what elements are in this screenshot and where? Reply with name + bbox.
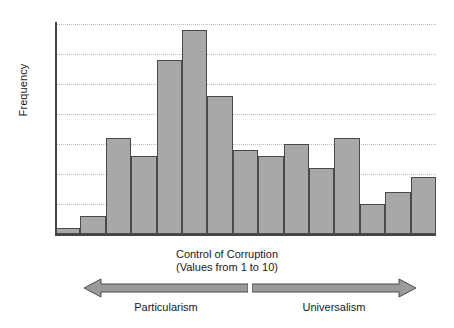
gridline-25 — [57, 84, 436, 85]
histogram-bar — [334, 138, 359, 234]
histogram-bar — [411, 177, 436, 234]
plot-area — [55, 22, 436, 236]
histogram-bar — [309, 168, 334, 234]
arrow-left-icon — [84, 277, 248, 299]
histogram-bar — [360, 204, 385, 234]
histogram-bar — [385, 192, 410, 234]
histogram-bar — [207, 96, 232, 234]
gridline-20 — [57, 114, 436, 115]
histogram-bar — [131, 156, 156, 234]
x-axis-subtitle: (Values from 1 to 10) — [0, 261, 454, 274]
particularism-label: Particularism — [84, 301, 248, 313]
x-axis-caption: Control of Corruption (Values from 1 to … — [0, 248, 454, 274]
histogram-bar — [106, 138, 131, 234]
histogram-bar — [80, 216, 105, 234]
scale-arrows — [0, 277, 454, 301]
histogram-figure: Frequency 05101520253035 Control of Corr… — [0, 0, 454, 328]
histogram-bar — [182, 30, 207, 234]
gridline-35 — [57, 24, 436, 25]
gridline-30 — [57, 54, 436, 55]
x-axis-title: Control of Corruption — [0, 248, 454, 261]
arrow-right-icon — [252, 277, 416, 299]
universalism-label: Universalism — [252, 301, 416, 313]
histogram-bar — [233, 150, 258, 234]
y-axis-title: Frequency — [17, 30, 29, 150]
x-axis-line — [55, 234, 436, 236]
arrow-labels: Particularism Universalism — [0, 301, 454, 317]
histogram-bar — [284, 144, 309, 234]
y-axis-line — [55, 22, 57, 236]
histogram-bar — [157, 60, 182, 234]
histogram-bar — [258, 156, 283, 234]
particularism-arrow — [84, 277, 248, 299]
universalism-arrow — [252, 277, 416, 299]
